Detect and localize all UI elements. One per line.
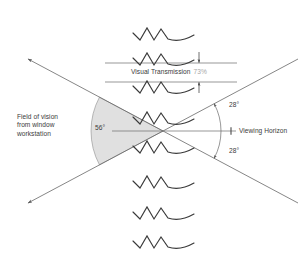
visual-transmission-label-group: Visual Transmission 73% — [131, 68, 207, 76]
arc-upper-28 — [214, 104, 221, 131]
vision-field-diagram: Field of vision from window workstation … — [0, 0, 308, 270]
glazing-louver-icon — [133, 207, 194, 219]
sight-line-lower-right — [163, 131, 298, 203]
upper-angle-label: 28° — [229, 101, 239, 109]
center-angle-label: 56° — [95, 124, 105, 132]
glazing-louver-icon — [133, 53, 194, 65]
glazing-louver-icon — [133, 236, 194, 248]
arc-lower-28 — [214, 131, 221, 158]
field-of-vision-label: Field of vision from window workstation — [17, 113, 89, 138]
viewing-horizon-label: Viewing Horizon — [239, 127, 287, 135]
glazing-louver-icon — [133, 176, 194, 188]
visual-transmission-label: Visual Transmission — [131, 68, 190, 76]
viewing-horizon-line — [163, 127, 236, 135]
glazing-louver-icon — [133, 28, 194, 40]
glazing-louver-icon — [133, 81, 194, 93]
visual-transmission-value: 73% — [193, 68, 206, 76]
lower-angle-label: 28° — [229, 147, 239, 155]
